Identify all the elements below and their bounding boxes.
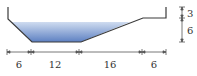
dim-label-depth: 6 bbox=[187, 25, 193, 36]
dim-label-freeboard: 3 bbox=[187, 8, 193, 19]
dim-label-ledge: 6 bbox=[151, 59, 157, 70]
dim-label-left-slope: 6 bbox=[16, 59, 22, 70]
vertical-dimension-line bbox=[179, 7, 185, 42]
channel-diagram: 6 12 16 6 3 6 bbox=[0, 0, 197, 76]
dim-label-right-slope: 16 bbox=[104, 59, 117, 70]
horizontal-dimension-line bbox=[7, 49, 166, 55]
dim-label-bottom: 12 bbox=[49, 59, 62, 70]
